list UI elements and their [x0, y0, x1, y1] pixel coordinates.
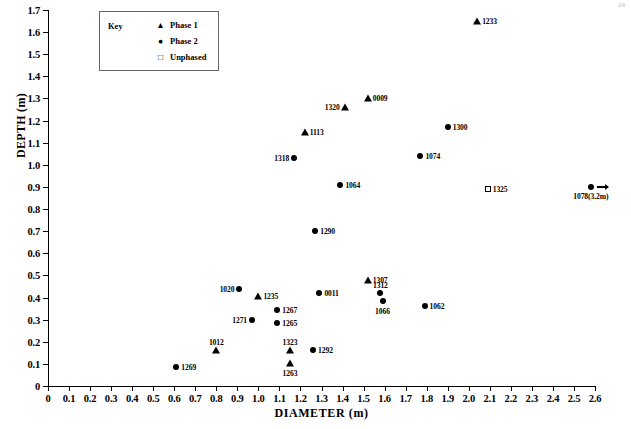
x-tick-mark — [174, 386, 175, 391]
x-tick-label: 1.4 — [336, 393, 349, 404]
y-tick-label: 0.4 — [27, 292, 40, 303]
data-point-label: 1066 — [375, 307, 390, 316]
x-tick-mark — [195, 386, 196, 391]
legend-entry-label: Phase 2 — [170, 36, 198, 46]
x-tick-label: 2.2 — [505, 393, 518, 404]
x-tick-mark — [48, 386, 49, 391]
circle-marker — [236, 286, 242, 292]
x-tick-mark — [448, 386, 449, 391]
y-axis-ticks: 00.10.20.30.40.50.60.70.80.91.01.11.21.3… — [0, 10, 48, 386]
x-tick-mark — [490, 386, 491, 391]
data-point-label: 1292 — [318, 346, 333, 355]
x-tick-mark — [343, 386, 344, 391]
triangle-marker — [286, 346, 294, 353]
circle-marker — [249, 317, 255, 323]
x-tick-label: 1.1 — [273, 393, 286, 404]
x-tick-label: 1.8 — [420, 393, 433, 404]
triangle-marker — [254, 293, 262, 300]
x-tick-mark — [216, 386, 217, 391]
x-tick-mark — [111, 386, 112, 391]
x-tick-label: 0.1 — [63, 393, 76, 404]
x-tick-label: 0.9 — [231, 393, 244, 404]
y-tick-label: 1.0 — [27, 159, 40, 170]
x-tick-mark — [322, 386, 323, 391]
circle-marker — [316, 290, 322, 296]
y-tick-label: 1.3 — [27, 93, 40, 104]
y-tick-label: 0.8 — [27, 204, 40, 215]
legend-box: Key ▲Phase 1●Phase 2□Unphased — [99, 11, 219, 71]
data-point-label: 1078(3.2m) — [573, 192, 608, 201]
x-tick-label: 1.6 — [378, 393, 391, 404]
circle-marker — [291, 155, 297, 161]
data-point-label: 1325 — [493, 185, 508, 194]
open-square-icon: □ — [156, 52, 165, 62]
data-point-label: 1074 — [425, 152, 440, 161]
y-tick-label: 0 — [35, 381, 40, 392]
x-tick-mark — [364, 386, 365, 391]
x-tick-mark — [237, 386, 238, 391]
data-point-label: 1263 — [283, 369, 298, 378]
x-tick-mark — [595, 386, 596, 391]
x-tick-label: 0.2 — [84, 393, 97, 404]
x-tick-label: 1.0 — [252, 393, 265, 404]
y-tick-label: 0.6 — [27, 248, 40, 259]
x-tick-mark — [132, 386, 133, 391]
circle-marker — [312, 228, 318, 234]
data-point-label: 1267 — [282, 306, 297, 315]
circle-marker — [337, 182, 343, 188]
x-axis-ticks: 00.10.20.30.40.50.60.70.80.91.01.11.21.3… — [48, 386, 595, 416]
x-tick-mark — [427, 386, 428, 391]
arrow-right-icon — [597, 186, 608, 188]
x-tick-mark — [574, 386, 575, 391]
triangle-marker — [286, 359, 294, 366]
open-square-marker — [485, 186, 491, 192]
x-tick-label: 1.2 — [294, 393, 307, 404]
x-tick-mark — [406, 386, 407, 391]
x-tick-mark — [258, 386, 259, 391]
circle-marker — [588, 184, 594, 190]
x-tick-mark — [553, 386, 554, 391]
data-point-label: 1064 — [345, 181, 360, 190]
x-tick-label: 0.4 — [126, 393, 139, 404]
legend-entry-label: Unphased — [170, 52, 206, 62]
x-tick-mark — [153, 386, 154, 391]
x-tick-mark — [469, 386, 470, 391]
x-tick-label: 2.1 — [484, 393, 497, 404]
y-tick-label: 0.9 — [27, 181, 40, 192]
triangle-marker — [473, 18, 481, 25]
triangle-icon: ▲ — [156, 20, 165, 30]
circle-icon: ● — [156, 36, 165, 46]
x-tick-label: 2.0 — [463, 393, 476, 404]
corner-page-mark: 24 — [618, 1, 625, 9]
circle-marker — [274, 307, 280, 313]
data-point-label: 1233 — [482, 17, 497, 26]
triangle-marker — [341, 104, 349, 111]
x-tick-label: 0 — [45, 393, 50, 404]
data-point-label: 1062 — [430, 302, 445, 311]
x-tick-mark — [385, 386, 386, 391]
y-tick-label: 1.5 — [27, 49, 40, 60]
data-point-label: 1312 — [373, 281, 388, 290]
circle-marker — [422, 303, 428, 309]
data-point-label: 1235 — [263, 292, 278, 301]
data-point-label: 1320 — [325, 103, 340, 112]
legend-title: Key — [108, 21, 123, 31]
circle-marker — [310, 347, 316, 353]
x-tick-mark — [532, 386, 533, 391]
x-tick-label: 0.6 — [168, 393, 181, 404]
y-tick-label: 1.7 — [27, 5, 40, 16]
circle-marker — [377, 290, 383, 296]
data-point-label: 1265 — [282, 319, 297, 328]
data-point-label: 1323 — [283, 338, 298, 347]
x-tick-label: 0.8 — [210, 393, 223, 404]
x-tick-label: 2.6 — [589, 393, 602, 404]
x-tick-label: 2.5 — [568, 393, 581, 404]
data-point-label: 1271 — [232, 316, 247, 325]
y-tick-label: 0.7 — [27, 226, 40, 237]
circle-marker — [274, 320, 280, 326]
circle-marker — [173, 364, 179, 370]
legend-entry-label: Phase 1 — [170, 20, 198, 30]
data-point-label: 0009 — [373, 94, 388, 103]
data-point-label: 1269 — [181, 363, 196, 372]
data-point-label: 1113 — [310, 128, 324, 137]
